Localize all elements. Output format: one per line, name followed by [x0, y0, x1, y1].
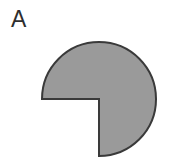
figure-canvas: A: [0, 0, 184, 164]
notched-circle-shape: [0, 0, 184, 164]
notched-circle-path: [42, 42, 156, 156]
